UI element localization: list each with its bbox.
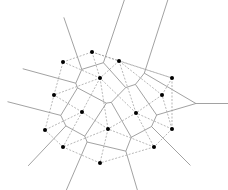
site-point [170,76,174,80]
site-point [117,59,121,63]
site-point [170,127,174,131]
site-point [134,111,138,115]
site-point [98,161,102,165]
site-point [43,128,47,132]
site-point [61,145,65,149]
site-point [90,50,94,54]
site-point [52,93,56,97]
site-point [106,127,110,131]
site-point [61,60,65,64]
background [0,0,228,190]
voronoi-delaunay-diagram [0,0,228,190]
site-point [98,76,102,80]
site-point [152,145,156,149]
site-point [80,110,84,114]
site-point [160,93,164,97]
